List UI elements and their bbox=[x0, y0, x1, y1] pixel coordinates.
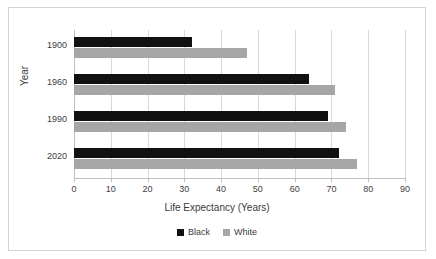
bar-white-1960 bbox=[74, 85, 335, 95]
bar-group-1960: 1960 bbox=[74, 73, 405, 98]
bar-black-2020 bbox=[74, 148, 339, 158]
bar-black-1990 bbox=[74, 111, 328, 121]
x-tick-80 bbox=[368, 178, 369, 182]
x-axis-title: Life Expectancy (Years) bbox=[9, 202, 425, 213]
x-tick-label-20: 20 bbox=[143, 184, 153, 195]
bar-white-1900 bbox=[74, 48, 247, 58]
x-tick-20 bbox=[148, 178, 149, 182]
y-axis-title: Year bbox=[19, 66, 30, 86]
bar-group-1990: 1990 bbox=[74, 110, 405, 135]
bar-group-1900: 1900 bbox=[74, 36, 405, 61]
x-tick-label-70: 70 bbox=[326, 184, 336, 195]
legend-label: White bbox=[234, 227, 257, 237]
y-tick-label-1960: 1960 bbox=[47, 77, 67, 88]
bar-group-2020: 2020 bbox=[74, 147, 405, 172]
bar-white-1990 bbox=[74, 122, 346, 132]
x-tick-0 bbox=[74, 178, 75, 182]
x-tick-40 bbox=[221, 178, 222, 182]
legend-item-white[interactable]: White bbox=[223, 227, 257, 237]
chart-card: Year 1900196019902020 Life Expectancy (Y… bbox=[8, 7, 426, 251]
x-tick-label-30: 30 bbox=[179, 184, 189, 195]
x-tick-30 bbox=[184, 178, 185, 182]
x-axis-line bbox=[74, 178, 406, 179]
chart-legend: BlackWhite bbox=[9, 227, 425, 237]
x-tick-50 bbox=[258, 178, 259, 182]
bar-black-1900 bbox=[74, 37, 192, 47]
x-tick-label-50: 50 bbox=[253, 184, 263, 195]
x-tick-10 bbox=[111, 178, 112, 182]
x-tick-label-10: 10 bbox=[106, 184, 116, 195]
legend-swatch-black-icon bbox=[177, 229, 184, 236]
y-tick-label-1900: 1900 bbox=[47, 40, 67, 51]
x-tick-60 bbox=[295, 178, 296, 182]
legend-swatch-white-icon bbox=[223, 229, 230, 236]
x-tick-label-0: 0 bbox=[71, 184, 76, 195]
y-tick-label-2020: 2020 bbox=[47, 151, 67, 162]
bar-white-2020 bbox=[74, 159, 357, 169]
y-tick-label-1990: 1990 bbox=[47, 114, 67, 125]
bar-black-1960 bbox=[74, 74, 309, 84]
x-tick-label-90: 90 bbox=[400, 184, 410, 195]
x-tick-label-40: 40 bbox=[216, 184, 226, 195]
x-tick-70 bbox=[331, 178, 332, 182]
legend-label: Black bbox=[188, 227, 210, 237]
gridline-90 bbox=[405, 30, 406, 178]
x-tick-90 bbox=[405, 178, 406, 182]
x-tick-label-80: 80 bbox=[363, 184, 373, 195]
x-tick-label-60: 60 bbox=[290, 184, 300, 195]
legend-item-black[interactable]: Black bbox=[177, 227, 210, 237]
plot-area: 1900196019902020 bbox=[74, 30, 405, 178]
